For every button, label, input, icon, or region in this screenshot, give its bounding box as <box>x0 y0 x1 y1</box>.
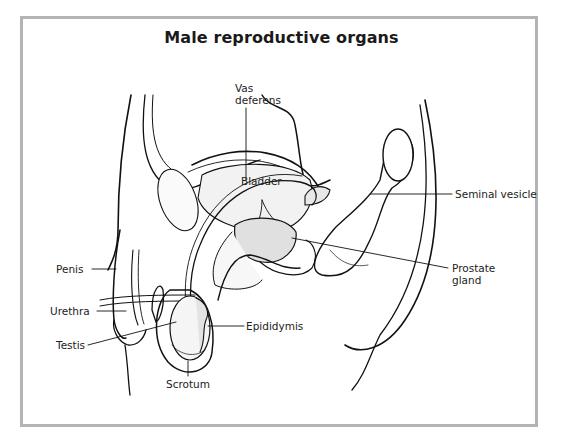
label-prostate-gland: Prostate gland <box>452 262 495 286</box>
testis-leader <box>88 322 176 345</box>
label-bladder: Bladder <box>241 175 282 187</box>
label-vas-deferens-line1: Vas <box>235 82 281 94</box>
label-scrotum: Scrotum <box>166 378 210 390</box>
label-seminal-vesicle: Seminal vesicle <box>455 188 537 200</box>
label-penis: Penis <box>56 263 83 275</box>
abdominal-wall-line <box>108 95 131 270</box>
label-prostate-line2: gland <box>452 274 495 286</box>
label-vas-deferens: Vas deferens <box>235 82 281 106</box>
label-epididymis: Epididymis <box>246 320 303 332</box>
label-prostate-line1: Prostate <box>452 262 495 274</box>
anatomy-illustration <box>0 0 563 446</box>
label-testis: Testis <box>56 339 85 351</box>
label-vas-deferens-line2: deferens <box>235 94 281 106</box>
penis-outline <box>113 230 126 338</box>
label-urethra: Urethra <box>50 305 90 317</box>
